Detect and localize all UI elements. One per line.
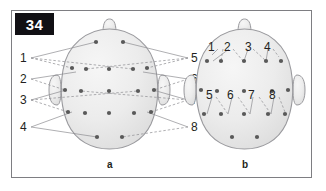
electrode-dot — [230, 135, 234, 139]
electrode-dot — [66, 110, 70, 114]
right-ear-a — [158, 75, 170, 105]
label-b-6: 6 — [227, 88, 234, 102]
eeg-electrode-diagram: 1 2 3 4 5 6 7 8 a — [0, 0, 326, 191]
caption-panel-a: a — [107, 159, 113, 170]
electrode-dot — [283, 112, 287, 116]
electrode-dot — [84, 67, 88, 71]
electrode-dot — [121, 40, 125, 44]
electrode-dot — [199, 88, 203, 92]
label-b-5: 5 — [206, 88, 213, 102]
electrode-dot — [94, 40, 98, 44]
electrode-dot — [107, 67, 111, 71]
electrode-dot — [63, 88, 67, 92]
figure-root: 34 — [0, 0, 326, 191]
electrode-dot — [136, 89, 140, 93]
electrode-dot — [120, 135, 124, 139]
label-a-right-8: 8 — [191, 120, 198, 134]
electrode-dot — [219, 112, 223, 116]
electrode-dot — [215, 89, 219, 93]
electrode-dot — [286, 88, 290, 92]
label-b-1: 1 — [208, 40, 215, 54]
panel-a: 1 2 3 4 5 6 7 8 a — [20, 19, 198, 170]
label-b-4: 4 — [264, 40, 271, 54]
electrode-dot — [95, 135, 99, 139]
electrode-dot — [266, 112, 270, 116]
electrode-dot — [132, 111, 136, 115]
caption-panel-b: b — [242, 159, 248, 170]
label-b-7: 7 — [248, 88, 255, 102]
label-a-left-3: 3 — [20, 93, 27, 107]
label-b-3: 3 — [245, 40, 252, 54]
electrode-dot — [279, 59, 283, 63]
electrode-dot — [219, 59, 223, 63]
electrode-dot — [152, 88, 156, 92]
electrode-dot — [70, 66, 74, 70]
electrode-dot — [149, 110, 153, 114]
label-a-right-5: 5 — [191, 51, 198, 65]
left-ear-a — [49, 75, 61, 105]
electrode-dot — [242, 89, 246, 93]
electrode-dot — [255, 135, 259, 139]
panel-b: 1 2 3 4 5 6 7 8 b — [184, 19, 305, 170]
label-a-left-2: 2 — [20, 72, 27, 86]
right-ear-b — [293, 75, 305, 105]
electrode-dot — [205, 59, 209, 63]
electrode-dot — [83, 111, 87, 115]
electrode-dot — [264, 59, 268, 63]
electrode-dot — [242, 112, 246, 116]
left-ear-b — [184, 75, 196, 105]
electrode-dot — [107, 89, 111, 93]
label-a-left-4: 4 — [20, 120, 27, 134]
electrode-dot — [242, 59, 246, 63]
electrode-dot — [145, 66, 149, 70]
electrode-dot — [107, 111, 111, 115]
electrode-dot — [79, 89, 83, 93]
label-b-8: 8 — [269, 88, 276, 102]
electrode-dot — [202, 112, 206, 116]
electrode-dot — [131, 67, 135, 71]
label-b-2: 2 — [224, 40, 231, 54]
label-a-left-1: 1 — [20, 51, 27, 65]
